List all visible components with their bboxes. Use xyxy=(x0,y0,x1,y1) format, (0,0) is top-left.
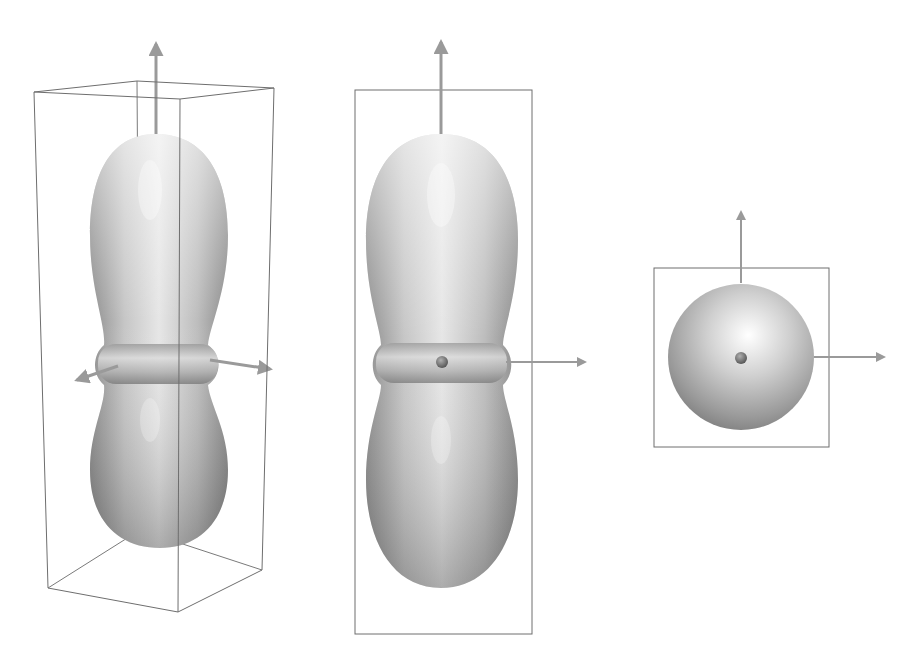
center-marker xyxy=(436,356,448,368)
panel-front-view xyxy=(355,42,585,634)
figure-canvas xyxy=(0,0,910,661)
center-marker xyxy=(735,352,747,364)
panel-top-view xyxy=(654,212,884,447)
equatorial-band xyxy=(98,344,218,384)
dumbbell-surface xyxy=(90,134,228,548)
panel-perspective-view xyxy=(34,44,274,612)
y-axis-arrow xyxy=(210,360,270,369)
